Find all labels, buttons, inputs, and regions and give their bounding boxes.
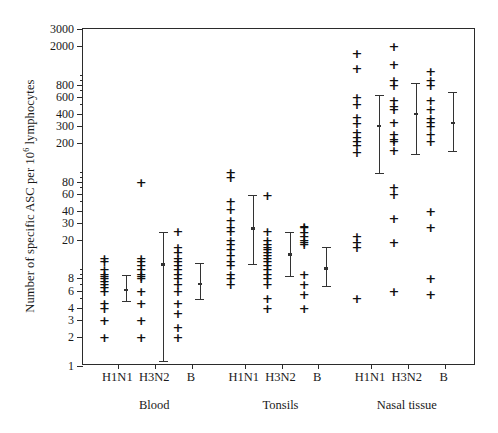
chart-figure: Number of specific ASC per 106 lymphocyt… — [0, 0, 498, 433]
y-axis-title-exponent: 6 — [22, 148, 31, 152]
y-axis-tick-label: 200 — [56, 135, 74, 150]
x-axis-tick-label: B — [439, 370, 447, 385]
x-axis-tick-label: H1N1 — [228, 370, 259, 385]
y-axis-tick-label: 60 — [62, 186, 74, 201]
data-point-marker: + — [425, 204, 436, 217]
x-axis-tick — [371, 364, 372, 369]
data-point-marker: + — [425, 272, 436, 285]
y-axis-tick — [77, 366, 83, 367]
x-axis-group-label: Tonsils — [263, 398, 299, 413]
x-axis-tick — [118, 364, 119, 369]
data-point-marker: + — [425, 78, 436, 91]
x-axis-tick — [155, 364, 156, 369]
x-axis-tick — [282, 364, 283, 369]
y-axis-tick-label: 600 — [56, 89, 74, 104]
y-axis-tick-label: 1 — [68, 359, 74, 374]
plot-area: 300020008006004003002008060403020864321+… — [82, 28, 475, 365]
mean-marker — [451, 122, 455, 125]
y-axis-tick-label: 6 — [68, 283, 74, 298]
x-axis-tick — [445, 364, 446, 369]
x-axis-tick — [408, 364, 409, 369]
x-axis-tick — [245, 364, 246, 369]
y-axis-tick-label: 30 — [62, 215, 74, 230]
x-axis-tick — [192, 364, 193, 369]
x-axis-tick-label: H3N2 — [392, 370, 423, 385]
x-axis-tick-label: B — [313, 370, 321, 385]
y-axis-title-suffix: lymphocytes — [23, 79, 37, 147]
x-axis-tick-label: H3N2 — [265, 370, 296, 385]
y-axis-tick-label: 2000 — [50, 39, 74, 54]
y-axis-tick-label: 20 — [62, 232, 74, 247]
x-axis-tick — [318, 364, 319, 369]
y-axis-tick-label: 3000 — [50, 22, 74, 37]
error-bar-cap-lower — [448, 151, 457, 152]
x-axis-tick-label: H3N2 — [139, 370, 170, 385]
x-axis-tick-label: H1N1 — [102, 370, 133, 385]
data-point-marker: + — [425, 288, 436, 301]
y-axis-tick-label: 300 — [56, 118, 74, 133]
error-bar-cap-upper — [448, 92, 457, 93]
x-axis-group-label: Blood — [139, 398, 170, 413]
data-point-marker: + — [425, 221, 436, 234]
y-axis-title: Number of specific ASC per 106 lymphocyt… — [22, 26, 38, 366]
y-axis-tick-label: 3 — [68, 312, 74, 327]
data-series-column: ++++++++++++++ — [83, 29, 474, 364]
x-axis-tick-label: B — [187, 370, 195, 385]
y-axis-tick-label: 2 — [68, 329, 74, 344]
x-axis-tick-label: H1N1 — [355, 370, 386, 385]
y-axis-title-text: Number of specific ASC per 10 — [23, 152, 37, 313]
x-axis-group-label: Nasal tissue — [377, 398, 437, 413]
data-point-marker: + — [425, 134, 436, 147]
